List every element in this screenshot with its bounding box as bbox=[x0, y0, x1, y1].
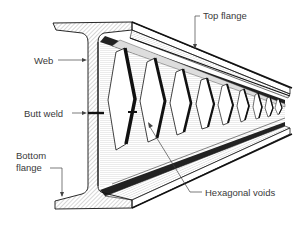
bottom-flange-leader bbox=[50, 168, 62, 196]
label-top-flange: Top flange bbox=[203, 10, 247, 21]
castellated-beam-diagram: Top flange Web Butt weld Bottom flange H… bbox=[0, 0, 306, 226]
label-butt-weld: Butt weld bbox=[24, 108, 63, 119]
top-flange-leader bbox=[195, 16, 200, 48]
label-bottom-flange-line2: flange bbox=[16, 162, 42, 173]
label-hexagonal-voids: Hexagonal voids bbox=[205, 187, 275, 198]
label-bottom-flange-line1: Bottom bbox=[16, 150, 46, 161]
label-web: Web bbox=[34, 55, 53, 66]
